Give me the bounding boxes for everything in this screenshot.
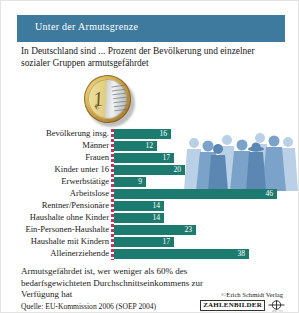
- euro-coin: 1 €: [84, 75, 138, 127]
- bar-row: Kinder unter 16 20: [1, 165, 299, 175]
- infographic-page: Unter der Armutsgrenze In Deutschland si…: [0, 0, 299, 313]
- footnote-text: Armutsgefährdet ist, wer weniger als 60%…: [21, 266, 206, 301]
- bar-label: Arbeitslose: [70, 188, 109, 198]
- bar-chart: Bevölkerung insg. 16 Männer 12 Frauen 17…: [1, 129, 299, 265]
- bar-label: Haushalte ohne Kinder: [30, 212, 109, 222]
- bar-row: Frauen 17: [1, 153, 299, 163]
- bar-row: Haushalte mit Kindern 17: [1, 237, 299, 247]
- zahlenbilder-logo-text: ZAHLENBILDER: [200, 300, 265, 311]
- bar-row: Rentner/Pensionäre 14: [1, 201, 299, 211]
- bar-row: Männer 12: [1, 141, 299, 151]
- source-text: Quelle: EU-Kommission 2006 (SOEP 2004): [21, 302, 156, 311]
- bar-label: Erwerbstätige: [61, 176, 109, 186]
- bar-row: Ein-Personen-Haushalte 23: [1, 225, 299, 235]
- bar-label: Männer: [82, 140, 109, 150]
- bar-fill: 9: [114, 177, 146, 187]
- bar-fill: 14: [114, 201, 164, 211]
- bar-value: 23: [184, 225, 192, 235]
- bar-row: Bevölkerung insg. 16: [1, 129, 299, 139]
- bar-row: Alleinerziehende 38: [1, 249, 299, 259]
- bar-value: 20: [173, 165, 181, 175]
- bar-fill: 46: [114, 189, 277, 199]
- bar-value: 38: [237, 249, 245, 259]
- bar-value: 14: [152, 213, 160, 223]
- bar-value: 17: [162, 237, 170, 247]
- bar-value: 46: [265, 189, 273, 199]
- bar-fill: 17: [114, 153, 174, 163]
- bar-fill: 12: [114, 141, 157, 151]
- bar-label: Rentner/Pensionäre: [42, 200, 109, 210]
- bar-fill: 38: [114, 249, 249, 259]
- page-title: Unter der Armutsgrenze: [35, 21, 138, 32]
- globe-mark-icon: [268, 300, 285, 310]
- bar-value: 9: [138, 177, 142, 187]
- bar-label: Haushalte mit Kindern: [31, 236, 109, 246]
- bar-value: 14: [152, 201, 160, 211]
- bar-label: Kinder unter 16: [55, 164, 109, 174]
- bar-row: Erwerbstätige 9: [1, 177, 299, 187]
- bar-value: 16: [159, 129, 167, 139]
- bar-fill: 16: [114, 129, 171, 139]
- bar-label: Ein-Personen-Haushalte: [25, 224, 109, 234]
- bar-fill: 17: [114, 237, 174, 247]
- bar-value: 12: [145, 141, 153, 151]
- bar-fill: 23: [114, 225, 196, 235]
- bar-value: 17: [162, 153, 170, 163]
- bar-row: Arbeitslose 46: [1, 189, 299, 199]
- bar-row: Haushalte ohne Kinder 14: [1, 213, 299, 223]
- publisher-credit: ©Erich Schmidt Verlag: [221, 291, 283, 298]
- bar-label: Alleinerziehende: [50, 248, 109, 258]
- bar-fill: 14: [114, 213, 164, 223]
- subtitle-text: In Deutschland sind ... Prozent der Bevö…: [21, 45, 285, 70]
- bar-label: Bevölkerung insg.: [46, 128, 109, 138]
- bar-label: Frauen: [85, 152, 109, 162]
- bar-fill: 20: [114, 165, 185, 175]
